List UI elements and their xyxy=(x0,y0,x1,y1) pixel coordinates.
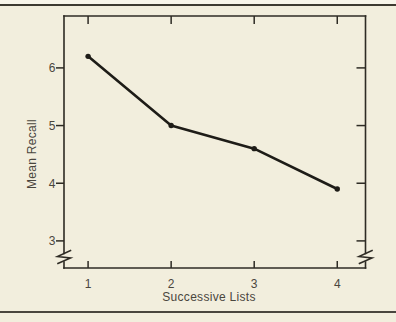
mean-recall-line-chart: 12346543 Successive Lists Mean Recall xyxy=(0,0,396,322)
x-tick-label: 4 xyxy=(334,277,341,291)
data-point-marker xyxy=(168,123,173,128)
data-point-marker xyxy=(335,186,340,191)
y-axis-label: Mean Recall xyxy=(25,119,39,189)
x-tick-label: 2 xyxy=(168,277,175,291)
axis-ticks xyxy=(56,16,366,268)
y-tick-label: 5 xyxy=(49,119,56,133)
y-tick-label: 4 xyxy=(49,177,56,191)
recall-series xyxy=(85,54,340,192)
axis-tick-labels: 12346543 xyxy=(49,61,341,291)
recall-data-line xyxy=(88,56,337,189)
y-tick-label: 6 xyxy=(49,61,56,75)
x-axis-label: Successive Lists xyxy=(162,290,256,304)
data-point-marker xyxy=(85,54,90,59)
data-point-marker xyxy=(252,146,257,151)
x-tick-label: 1 xyxy=(85,277,92,291)
x-tick-label: 3 xyxy=(251,277,258,291)
y-tick-label: 3 xyxy=(49,234,56,248)
figure-page: 12346543 Successive Lists Mean Recall xyxy=(0,0,396,322)
plot-box xyxy=(58,16,373,268)
